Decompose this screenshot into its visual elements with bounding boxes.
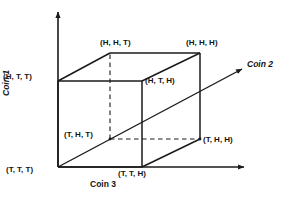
vertex-dot-THH (199, 138, 202, 141)
axis-label-coin3: Coin 3 (90, 180, 116, 189)
vertex-label-HHH: (H, H, H) (186, 38, 218, 47)
axis-label-coin1: Coin 1 (2, 70, 11, 96)
hidden-edges-group (110, 53, 200, 139)
coin-cube-figure: (H, H, T) (H, H, H) (H, T, T) (H, T, H) … (0, 0, 287, 198)
vertex-label-THT: (T, H, T) (64, 130, 93, 139)
vertex-dot-THT (109, 138, 112, 141)
vertex-label-TTH: (T, T, H) (118, 169, 146, 178)
axis-label-coin2: Coin 2 (247, 60, 273, 69)
visible-edges-group (58, 53, 200, 167)
edge-HTT-HHT (58, 53, 110, 81)
vertex-label-TTT: (T, T, T) (6, 165, 33, 174)
vertex-label-HHT: (H, H, T) (100, 38, 131, 47)
edge-TTH-THH (142, 139, 200, 167)
vertex-label-HTH: (H, T, H) (145, 76, 175, 85)
vertex-label-THH: (T, H, H) (203, 135, 233, 144)
